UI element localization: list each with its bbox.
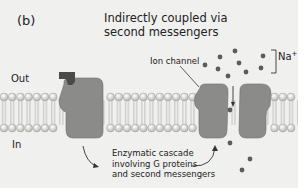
- cascade-label: Enzymatic cascade involving G proteins a…: [112, 148, 215, 180]
- ion-channel-left: [195, 84, 229, 138]
- sodium-bracket: [271, 50, 276, 73]
- sodium-label: Na+: [278, 50, 297, 62]
- ion-channel-label: Ion channel: [150, 56, 199, 66]
- inside-label: In: [12, 139, 21, 150]
- sodium-charge: +: [292, 50, 298, 58]
- title-line-2: second messengers: [104, 25, 227, 39]
- panel-label: (b): [17, 13, 35, 28]
- cascade-arrow-left: [83, 146, 96, 166]
- figure-title: Indirectly coupled via second messengers: [104, 11, 227, 39]
- receptor-protein: [59, 78, 103, 138]
- title-line-1: Indirectly coupled via: [104, 11, 227, 25]
- cascade-arrowhead-left: [93, 163, 99, 168]
- ion-channel-right: [239, 84, 271, 138]
- sodium-symbol: Na: [278, 51, 292, 62]
- outside-label: Out: [11, 73, 29, 84]
- ion-channel-pointer: [180, 66, 199, 87]
- cascade-line-3: and second messengers: [112, 169, 215, 180]
- cascade-line-2: involving G proteins: [112, 159, 215, 170]
- cascade-line-1: Enzymatic cascade: [112, 148, 215, 159]
